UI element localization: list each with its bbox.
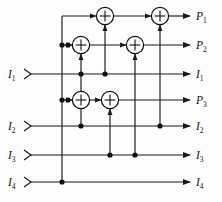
junction-dots <box>59 42 162 184</box>
input-labels: I1 I2 I3 I4 <box>7 68 16 191</box>
input-label-i1: I1 <box>7 68 16 83</box>
node-i1-tap-b <box>102 71 107 76</box>
output-labels: P1 P2 I1 P3 I2 I3 I4 <box>195 10 207 191</box>
node-p3-feed-right <box>65 97 70 102</box>
input-label-i2: I2 <box>7 120 16 135</box>
node-p2-feed-right <box>65 42 70 47</box>
node-i3-tap-a <box>107 152 112 157</box>
input-port-i1 <box>24 69 31 79</box>
node-i1-tap-a <box>78 71 83 76</box>
input-label-i3: I3 <box>7 149 16 164</box>
input-port-i2 <box>24 121 31 131</box>
node-p2-feed-left <box>59 42 64 47</box>
adder-p3-a[interactable] <box>72 91 89 108</box>
node-i2-tap-b <box>157 123 162 128</box>
output-label-p3: P3 <box>195 94 207 109</box>
node-i3-tap-b <box>132 152 137 157</box>
circuit-canvas: I1 I2 I3 I4 P1 P2 I1 P3 <box>0 0 222 202</box>
output-label-i1: I1 <box>195 68 204 83</box>
node-i4-tap <box>59 179 64 184</box>
input-label-i4: I4 <box>7 176 16 191</box>
input-port-i4 <box>24 177 31 187</box>
node-p3-feed-left <box>59 97 64 102</box>
input-ports <box>24 69 31 187</box>
output-label-i4: I4 <box>195 176 204 191</box>
output-label-p1: P1 <box>195 10 207 25</box>
adder-p2-a[interactable] <box>72 36 89 53</box>
adder-p1-b[interactable] <box>151 7 168 24</box>
adder-p2-b[interactable] <box>126 36 143 53</box>
adder-p3-b[interactable] <box>101 91 118 108</box>
node-i2-tap-a <box>78 123 83 128</box>
circuit-diagram: I1 I2 I3 I4 P1 P2 I1 P3 <box>0 0 222 202</box>
output-label-p2: P2 <box>195 39 207 54</box>
input-port-i3 <box>24 150 31 160</box>
output-label-i2: I2 <box>195 120 204 135</box>
output-label-i3: I3 <box>195 149 204 164</box>
adder-p1-a[interactable] <box>96 7 113 24</box>
